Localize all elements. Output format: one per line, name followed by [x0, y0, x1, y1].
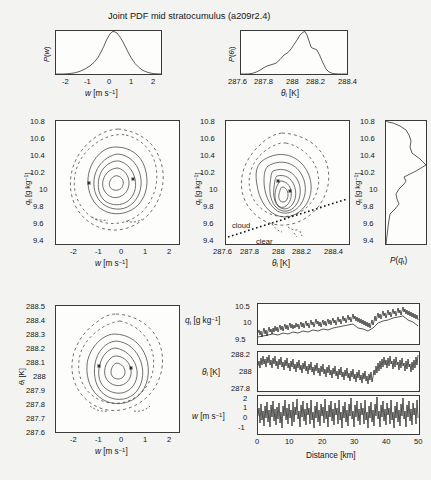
pdf-thetal-xlabel: θl [K]	[281, 90, 299, 99]
figure-title: Joint PDF mid stratocumulus (a209r2.4)	[108, 11, 270, 21]
pdf-w-xtick-2: 0	[107, 78, 111, 86]
thw-xtick-0: -2	[70, 436, 77, 444]
qtth-ytick-10-4: 10.4	[200, 152, 215, 160]
thw-xtick-2: 0	[119, 436, 123, 444]
tsth-ytick-287-8: 287.8	[231, 385, 250, 393]
thw-ytick-288-3: 288.3	[26, 331, 45, 339]
qtth-ytick-10-6: 10.6	[200, 135, 215, 143]
panel-joint-qt-w	[55, 120, 180, 245]
thw-xtick-4: 2	[167, 436, 171, 444]
tsqt-ytick-10: 10	[243, 319, 251, 327]
tsw-xtick-20: 20	[318, 438, 326, 446]
qtw-ytick-9-8: 9.8	[33, 203, 44, 211]
thw-xtick-3: 1	[143, 436, 147, 444]
qtw-ylabel: qt [g kg−1]	[24, 172, 33, 205]
qtw-ytick-9-6: 9.6	[33, 220, 44, 228]
pdfqt-ytick-10-8: 10.8	[360, 118, 375, 126]
tsqt-ytick-9-5: 9.5	[235, 336, 246, 344]
thw-xlabel: w [m s−1]	[95, 448, 128, 457]
qtw-xtick-2: 0	[119, 248, 123, 256]
thw-ytick-288-5: 288.5	[26, 303, 45, 311]
ts-w-trace	[258, 396, 419, 434]
tsth-ytick-288: 288	[239, 368, 252, 376]
pdf-w-xtick-4: 2	[151, 78, 155, 86]
qtth-xtick-2: 288	[272, 248, 285, 256]
panel-pdf-thetal	[240, 30, 348, 75]
ts-w-ylabel: w [m s−1]	[192, 413, 225, 422]
tsw-xtick-30: 30	[350, 438, 358, 446]
pdfqt-ytick-9-6: 9.6	[363, 220, 374, 228]
panel-ts-qt	[257, 303, 420, 345]
thw-ytick-287-8: 287.8	[26, 401, 45, 409]
ts-thetal-trace	[258, 352, 419, 391]
qtw-xtick-0: -2	[70, 248, 77, 256]
pdf-w-xtick-0: -2	[62, 78, 69, 86]
qtw-ytick-10-4: 10.4	[30, 152, 45, 160]
qtw-xtick-3: 1	[143, 248, 147, 256]
pdfqt-ytick-10-4: 10.4	[360, 152, 375, 160]
figure-root: Joint PDF mid stratocumulus (a209r2.4) P…	[0, 0, 431, 480]
qtw-ytick-9-4: 9.4	[33, 237, 44, 245]
pdf-thetal-ylabel: P(θl)	[228, 47, 237, 62]
pdfqt-ytick-9-4: 9.4	[363, 237, 374, 245]
pdf-w-curve	[56, 31, 161, 74]
pdf-thetal-xtick-0: 287.6	[228, 78, 247, 86]
thw-ytick-287-9: 287.9	[26, 387, 45, 395]
tsqt-ytick-10-5: 10.5	[235, 303, 250, 311]
tsw-xtick-40: 40	[382, 438, 390, 446]
thw-ylabel: θl [K]	[18, 368, 27, 385]
pdf-thetal-xtick-4: 288.4	[338, 78, 357, 86]
qtth-xtick-4: 288.4	[324, 248, 343, 256]
thw-ytick-287-7: 287.7	[26, 415, 45, 423]
pdf-thetal-xtick-2: 288	[286, 78, 299, 86]
pdf-w-xtick-3: 1	[129, 78, 133, 86]
qtth-ytick-9-8: 9.8	[203, 203, 214, 211]
tsw-ytick-neg1: -1	[238, 424, 245, 432]
thw-ytick-288-1: 288.1	[26, 359, 45, 367]
tsw-ytick-0: 0	[243, 414, 247, 422]
thw-ytick-288-2: 288.2	[26, 345, 45, 353]
tsw-xtick-10: 10	[285, 438, 293, 446]
qtw-xtick-1: -1	[95, 248, 102, 256]
ts-thetal-ylabel: θl [K]	[202, 369, 220, 378]
pdfqt-ytick-10-6: 10.6	[360, 135, 375, 143]
thw-ytick-288: 288	[33, 373, 46, 381]
pdf-w-ylabel: P(w)	[43, 46, 51, 62]
tsw-ytick-2: 2	[243, 395, 247, 403]
pdfqt-ylabel: qt [g kg−1]	[354, 172, 363, 205]
joint-thetal-w-contours	[56, 306, 179, 432]
qtth-ylabel: qt [g kg−1]	[194, 172, 203, 205]
clear-label: clear	[256, 238, 272, 246]
pdf-thetal-xtick-3: 288.2	[306, 78, 325, 86]
panel-pdf-qt	[385, 120, 427, 245]
pdf-thetal-curve	[241, 31, 347, 74]
qtth-xtick-0: 287.6	[213, 248, 232, 256]
tsth-ytick-288-2: 288.2	[231, 351, 250, 359]
panel-joint-thetal-w	[55, 305, 180, 433]
thw-xtick-1: -1	[95, 436, 102, 444]
thw-ytick-287-6: 287.6	[26, 429, 45, 437]
thw-ytick-288-4: 288.4	[26, 317, 45, 325]
qtth-ytick-9-4: 9.4	[203, 237, 214, 245]
pdf-w-xlabel: w [m s−1]	[85, 90, 118, 99]
panel-pdf-w	[55, 30, 162, 75]
qtw-ytick-10-8: 10.8	[30, 118, 45, 126]
ts-qt-trace	[258, 304, 419, 344]
panel-ts-w	[257, 395, 420, 435]
pdf-qt-curve	[386, 121, 426, 244]
cloud-label: cloud	[232, 222, 250, 230]
qtw-ytick-10-6: 10.6	[30, 135, 45, 143]
pdf-w-xtick-1: -1	[84, 78, 91, 86]
qtw-ytick-10: 10	[39, 186, 47, 194]
qtth-xtick-1: 287.8	[240, 248, 259, 256]
tsw-ytick-1: 1	[243, 404, 247, 412]
qtw-xtick-4: 2	[167, 248, 171, 256]
ts-qt-ylabel: qt [g kg−1]	[185, 317, 220, 327]
qtth-xlabel: θl [K]	[272, 260, 290, 269]
pdf-thetal-xtick-1: 287.8	[254, 78, 273, 86]
tsw-xlabel: Distance [km]	[306, 452, 356, 460]
qtth-xtick-3: 288.2	[292, 248, 311, 256]
pdfqt-ytick-10: 10	[369, 186, 377, 194]
joint-qt-w-contours	[56, 121, 179, 244]
qtth-ytick-10: 10	[209, 186, 217, 194]
